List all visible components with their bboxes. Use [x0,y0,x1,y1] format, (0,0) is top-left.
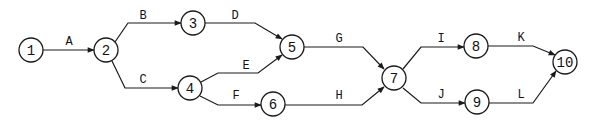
edge-label: J [437,88,444,102]
edge-label: K [517,31,525,45]
arrow-line-g [304,47,384,69]
node-4: 4 [178,76,202,100]
nodes-layer: 12345678910 [19,11,577,116]
node-label: 8 [472,39,480,55]
node-label: 1 [27,43,35,59]
arrow-line-f [200,96,261,105]
edge-i: I [403,32,464,69]
node-9: 9 [465,90,489,114]
node-label: 3 [189,16,197,32]
edge-l: L [489,71,556,103]
edge-label: C [139,73,146,87]
edge-label: E [242,59,249,73]
edge-b: B [115,9,181,42]
node-3: 3 [181,11,205,35]
edge-k: K [488,31,555,55]
network-diagram: ABCDEFGHIJKL 12345678910 [0,0,599,121]
node-label: 4 [186,81,194,97]
edge-j: J [403,88,465,103]
edge-label: A [65,35,73,49]
arrow-line-j [403,88,465,103]
arrow-line-k [488,46,555,55]
edge-label: F [232,89,239,103]
node-8: 8 [464,34,488,58]
node-label: 5 [288,40,296,56]
node-label: 6 [269,97,277,113]
edge-e: E [201,55,282,82]
edge-label: B [139,9,146,23]
node-7: 7 [382,66,406,90]
edge-label: L [517,88,524,102]
edge-label: D [231,9,238,23]
edge-d: D [205,9,282,39]
edge-a: A [43,35,94,50]
edge-f: F [200,89,261,105]
node-label: 10 [557,55,574,71]
node-label: 7 [390,71,398,87]
node-label: 9 [473,95,481,111]
node-5: 5 [280,35,304,59]
arrow-line-i [403,47,464,69]
node-1: 1 [19,38,43,62]
arrow-line-d [205,23,282,39]
edge-g: G [304,32,384,69]
node-2: 2 [94,38,118,62]
edge-label: G [335,32,342,46]
node-label: 2 [102,43,110,59]
node-6: 6 [261,92,285,116]
edge-label: H [335,89,342,103]
edge-label: I [437,32,444,46]
edge-h: H [285,87,384,105]
node-10: 10 [553,50,577,74]
edge-c: C [112,61,178,88]
arrow-line-b [115,23,181,42]
